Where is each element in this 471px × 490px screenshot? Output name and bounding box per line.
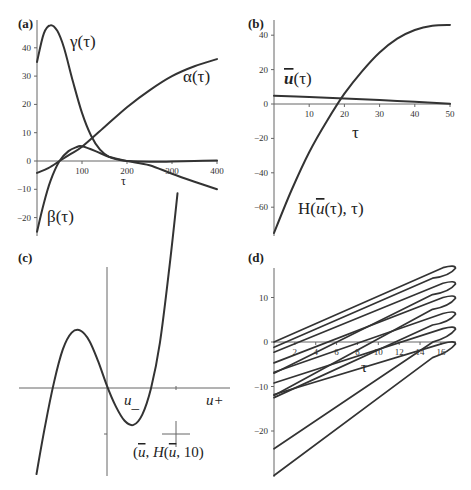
label-u-minus: u_ [124,392,140,411]
label-H: H(u(τ), τ) [298,199,364,218]
x-tick-label: 30 [375,109,385,119]
x-tick-label: 100 [75,166,89,176]
y-tick-label: 0 [264,337,269,347]
y-tick-label: 10 [22,128,32,138]
panel-d: (d) −20−10010246810121416 τ [248,250,456,477]
loop-curve [274,312,455,398]
label-ubar: u(τ) [284,69,312,88]
panel-label-b: (b) [248,16,264,31]
panel-a: (a) −20−10010203040100200300400 γ(τ) α(τ… [17,16,224,236]
y-tick-label: 20 [22,99,32,109]
axes-a: −20−10010203040100200300400 [17,20,224,236]
label-beta: β(τ) [47,207,74,226]
y-tick-label: 20 [259,65,269,75]
panel-b: (b) −60−40−20020401020304050 u(τ) H(u(τ)… [248,16,455,236]
x-tick-label: 6 [334,347,339,357]
y-tick-label: 0 [264,99,269,109]
y-tick-label: 40 [22,43,32,53]
xlabel-d: τ [361,359,367,375]
y-tick-label: −60 [254,202,269,212]
figure: (a) −20−10010203040100200300400 γ(τ) α(τ… [0,0,471,490]
y-tick-label: −20 [254,426,269,436]
y-tick-label: −40 [254,168,269,178]
axes-d: −20−10010246810121416 [254,268,456,477]
label-u-plus: u+ [206,392,224,408]
x-tick-label: 20 [340,109,350,119]
panel-label-a: (a) [18,16,33,31]
label-gamma: γ(τ) [69,32,96,51]
curve [274,96,450,104]
y-tick-label: 40 [259,30,269,40]
panel-label-c: (c) [18,250,32,265]
y-tick-label: −10 [17,184,32,194]
label-alpha: α(τ) [183,67,210,86]
curves-a [37,25,217,232]
x-tick-label: 40 [410,109,420,119]
y-tick-label: 0 [27,156,32,166]
y-tick-label: −10 [254,382,269,392]
panel-label-d: (d) [248,250,264,265]
loop-curve [274,266,455,347]
y-tick-label: −20 [254,133,269,143]
y-tick-label: 30 [22,71,32,81]
curve [37,25,217,162]
x-tick-label: 50 [446,109,456,119]
panel-c: (c) u_ u+ (u, H(u, 10) [18,193,230,476]
x-tick-label: 10 [305,109,315,119]
x-tick-label: 400 [210,166,224,176]
xlabel-b: τ [352,123,359,142]
y-tick-label: 10 [259,293,269,303]
xlabel-a: τ [121,174,126,188]
y-tick-label: −20 [17,213,32,223]
label-min-point: (u, H(u, 10) [133,444,204,461]
